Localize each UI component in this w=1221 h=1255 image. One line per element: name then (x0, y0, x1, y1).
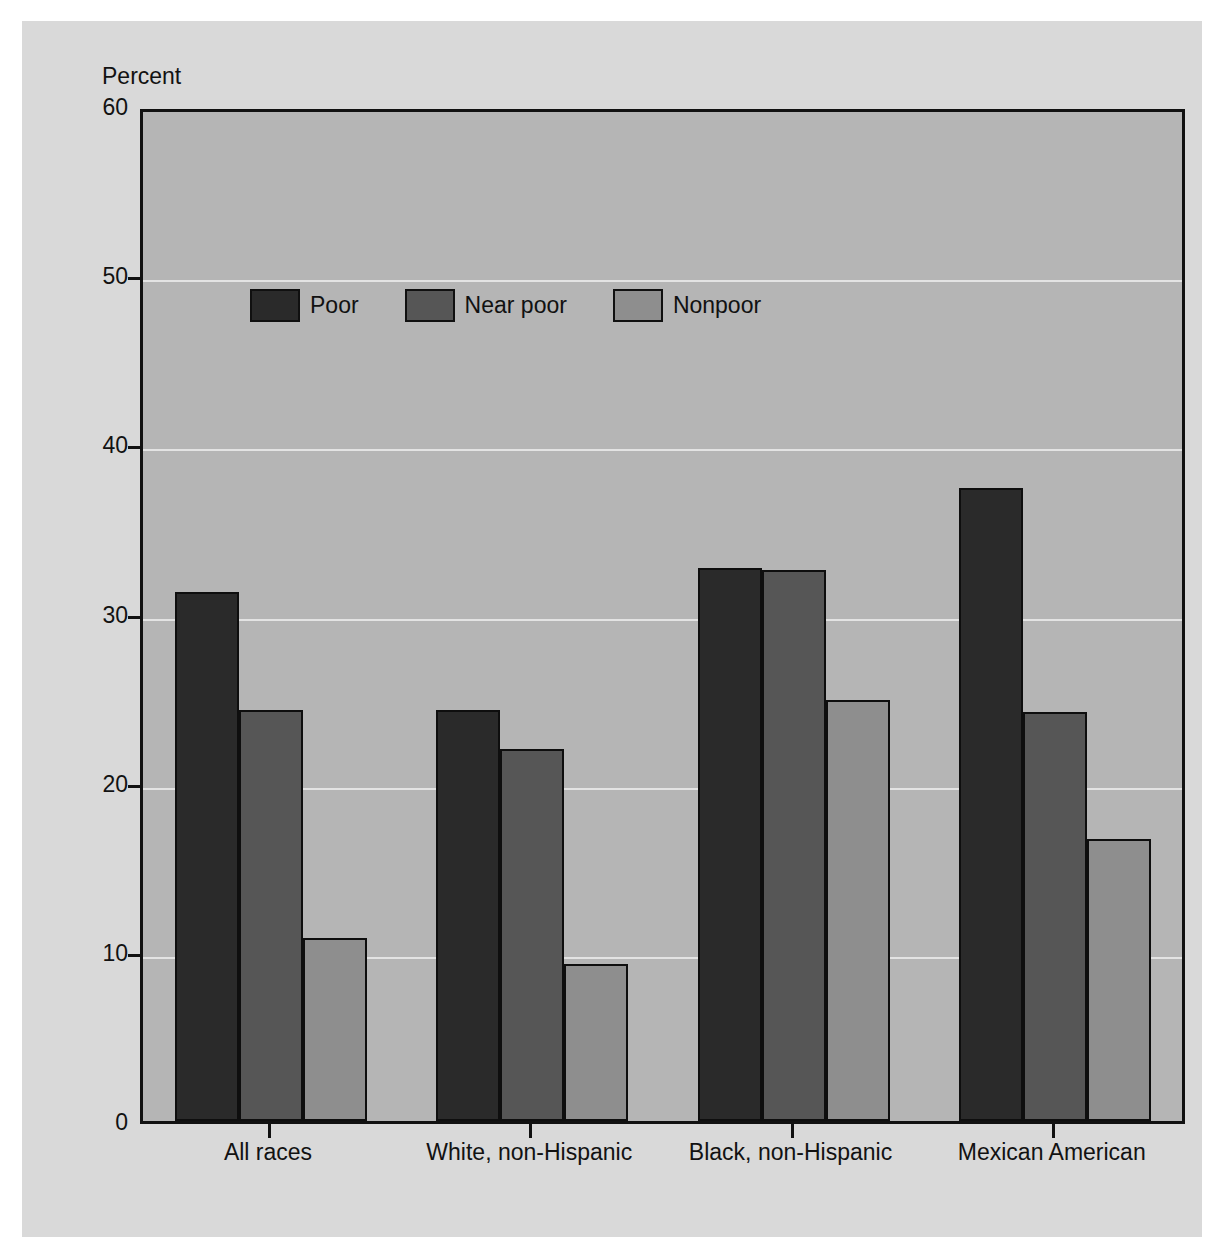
x-axis-category-label: Mexican American (958, 1139, 1146, 1166)
bar (698, 568, 762, 1121)
bar (959, 488, 1023, 1121)
y-axis-tick-label: 0 (68, 1109, 128, 1136)
legend-entry: Nonpoor (613, 289, 761, 322)
y-axis-title: Percent (102, 63, 181, 90)
figure-container: Percent 0102030405060 PoorNear poorNonpo… (0, 0, 1221, 1255)
y-axis-tick-label: 40 (68, 432, 128, 459)
legend-entry: Poor (250, 289, 359, 322)
bar (826, 700, 890, 1121)
y-axis-tick-label: 20 (68, 771, 128, 798)
x-axis-tick-mark (268, 1124, 271, 1138)
chart-legend: PoorNear poorNonpoor (250, 289, 807, 322)
bar (564, 964, 628, 1121)
figure-caption-fragment (30, 0, 430, 6)
legend-label: Poor (310, 292, 359, 319)
bar (436, 710, 500, 1121)
legend-swatch (250, 289, 300, 322)
y-axis-tick-label: 60 (68, 94, 128, 121)
legend-label: Nonpoor (673, 292, 761, 319)
y-axis-tick-label: 30 (68, 602, 128, 629)
bar (762, 570, 826, 1121)
plot-area (140, 109, 1185, 1124)
bar (500, 749, 564, 1121)
y-axis-tick-label: 10 (68, 940, 128, 967)
bars-layer (143, 112, 1182, 1121)
x-axis-tick-mark (791, 1124, 794, 1138)
bar (1087, 839, 1151, 1122)
bar (1023, 712, 1087, 1121)
x-axis-category-label: White, non-Hispanic (426, 1139, 632, 1166)
x-axis-tick-mark (529, 1124, 532, 1138)
legend-label: Near poor (465, 292, 567, 319)
legend-swatch (405, 289, 455, 322)
bar (175, 592, 239, 1121)
bar (303, 938, 367, 1121)
x-axis-tick-mark (1052, 1124, 1055, 1138)
bar (239, 710, 303, 1121)
figure-panel: Percent 0102030405060 PoorNear poorNonpo… (22, 21, 1202, 1237)
legend-entry: Near poor (405, 289, 567, 322)
x-axis-category-label: All races (224, 1139, 312, 1166)
legend-swatch (613, 289, 663, 322)
y-axis-tick-label: 50 (68, 263, 128, 290)
x-axis-category-label: Black, non-Hispanic (689, 1139, 892, 1166)
